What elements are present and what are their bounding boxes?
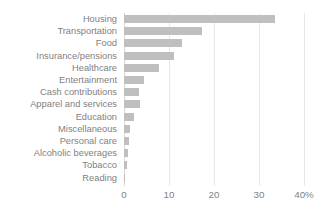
- bar: [124, 149, 128, 157]
- bar: [124, 161, 127, 169]
- bar: [124, 15, 275, 23]
- bar-band: [124, 111, 304, 123]
- bar-band: [124, 74, 304, 86]
- category-label: Apparel and services: [0, 98, 117, 110]
- bar-band: [124, 123, 304, 135]
- bar: [124, 27, 202, 35]
- category-label: Transportation: [0, 25, 117, 37]
- category-label: Healthcare: [0, 62, 117, 74]
- category-label: Cash contributions: [0, 86, 117, 98]
- value-axis-tick-labels: 010203040%: [0, 188, 330, 204]
- category-label: Tobacco: [0, 159, 117, 171]
- bar-band: [124, 172, 304, 184]
- category-label: Entertainment: [0, 74, 117, 86]
- bar: [124, 137, 129, 145]
- bar: [124, 76, 144, 84]
- category-label: Alcoholic beverages: [0, 147, 117, 159]
- bar: [124, 64, 159, 72]
- category-label: Reading: [0, 172, 117, 184]
- bar-band: [124, 147, 304, 159]
- category-label: Personal care: [0, 135, 117, 147]
- category-label: Housing: [0, 13, 117, 25]
- bar: [124, 174, 125, 182]
- bar-band: [124, 98, 304, 110]
- value-axis-tick-label: 0: [121, 188, 126, 202]
- bar-band: [124, 135, 304, 147]
- category-label: Insurance/pensions: [0, 50, 117, 62]
- bar-band: [124, 159, 304, 171]
- gridline-40: [304, 13, 305, 186]
- bar: [124, 100, 140, 108]
- bar: [124, 39, 182, 47]
- category-label: Miscellaneous: [0, 123, 117, 135]
- bar-chart: HousingTransportationFoodInsurance/pensi…: [0, 0, 330, 209]
- category-label: Education: [0, 111, 117, 123]
- bar-band: [124, 13, 304, 25]
- bar-band: [124, 62, 304, 74]
- bar: [124, 88, 139, 96]
- value-axis-tick-label: 30: [254, 188, 265, 202]
- bar: [124, 125, 130, 133]
- bar-band: [124, 50, 304, 62]
- bar-band: [124, 25, 304, 37]
- bar-band: [124, 86, 304, 98]
- plot-area: [124, 13, 304, 186]
- category-axis-labels: HousingTransportationFoodInsurance/pensi…: [0, 13, 117, 186]
- category-label: Food: [0, 37, 117, 49]
- value-axis-tick-label: 40%: [294, 188, 314, 202]
- bar: [124, 113, 134, 121]
- bar-band: [124, 37, 304, 49]
- bar: [124, 52, 174, 60]
- value-axis-tick-label: 20: [209, 188, 220, 202]
- bar-series: [124, 13, 304, 186]
- value-axis-tick-label: 10: [164, 188, 175, 202]
